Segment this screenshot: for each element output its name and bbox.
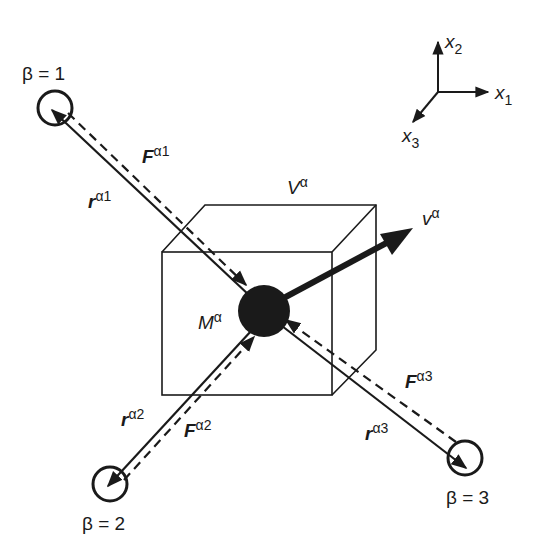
position-label-alpha3: rα3 xyxy=(365,420,389,444)
x1-axis-label: x1 xyxy=(494,82,513,108)
velocity-label: vα xyxy=(422,205,440,229)
position-vector-r-alpha3 xyxy=(282,326,466,468)
force-label-alpha2: Fα2 xyxy=(184,417,212,441)
volume-label: Vα xyxy=(287,174,308,198)
neighbor-beta-3: β = 3 Fα3 rα3 xyxy=(282,320,489,508)
neighbor-particle-1 xyxy=(38,91,72,125)
x3-axis-arrow xyxy=(413,92,438,122)
particle-alpha-mass xyxy=(238,285,290,337)
neighbor-3-label: β = 3 xyxy=(446,487,489,508)
particle-interaction-diagram: x2 x1 x3 Vα β = 1 Fα1 rα1 β = 2 rα2 Fα2 … xyxy=(0,0,539,558)
neighbor-1-label: β = 1 xyxy=(22,63,65,84)
force-label-alpha3: Fα3 xyxy=(405,368,433,392)
position-label-alpha1: rα1 xyxy=(88,188,112,212)
x3-axis-label: x3 xyxy=(401,125,420,151)
force-label-alpha1: Fα1 xyxy=(142,143,170,167)
position-vector-r-alpha1 xyxy=(52,110,250,296)
mass-label: Mα xyxy=(198,309,222,333)
position-label-alpha2: rα2 xyxy=(121,406,145,430)
neighbor-beta-1: β = 1 Fα1 rα1 xyxy=(22,63,250,296)
cube-top-right-edge xyxy=(332,205,376,252)
neighbor-beta-2: β = 2 rα2 Fα2 xyxy=(82,330,254,534)
x2-axis-label: x2 xyxy=(444,31,463,57)
coordinate-axes: x2 x1 x3 xyxy=(401,31,513,151)
velocity-arrow-head xyxy=(380,228,413,255)
neighbor-2-label: β = 2 xyxy=(82,513,125,534)
